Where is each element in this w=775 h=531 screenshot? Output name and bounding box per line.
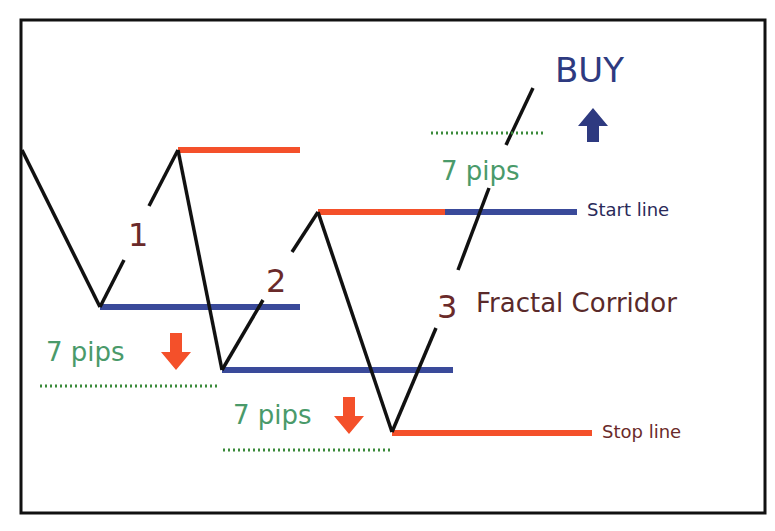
price-path [22,88,533,432]
wave-number-2: 2 [266,262,286,300]
pips-label-left: 7 pips [46,337,125,367]
arrow-down-icon [334,397,364,434]
wave-number-3: 3 [437,288,457,326]
arrow-up-icon [578,108,608,142]
pips-label-top: 7 pips [441,156,520,186]
pips-label-bottom: 7 pips [233,400,312,430]
buy-label: BUY [555,50,624,90]
corridor-label: Fractal Corridor [476,288,677,318]
wave-number-1: 1 [128,216,148,254]
arrow-down-icon [161,333,191,370]
fractal-corridor-diagram: 1 2 3 Fractal Corridor BUY Start line St… [0,0,775,531]
start-line-label: Start line [587,199,669,220]
stop-line-label: Stop line [602,421,681,442]
